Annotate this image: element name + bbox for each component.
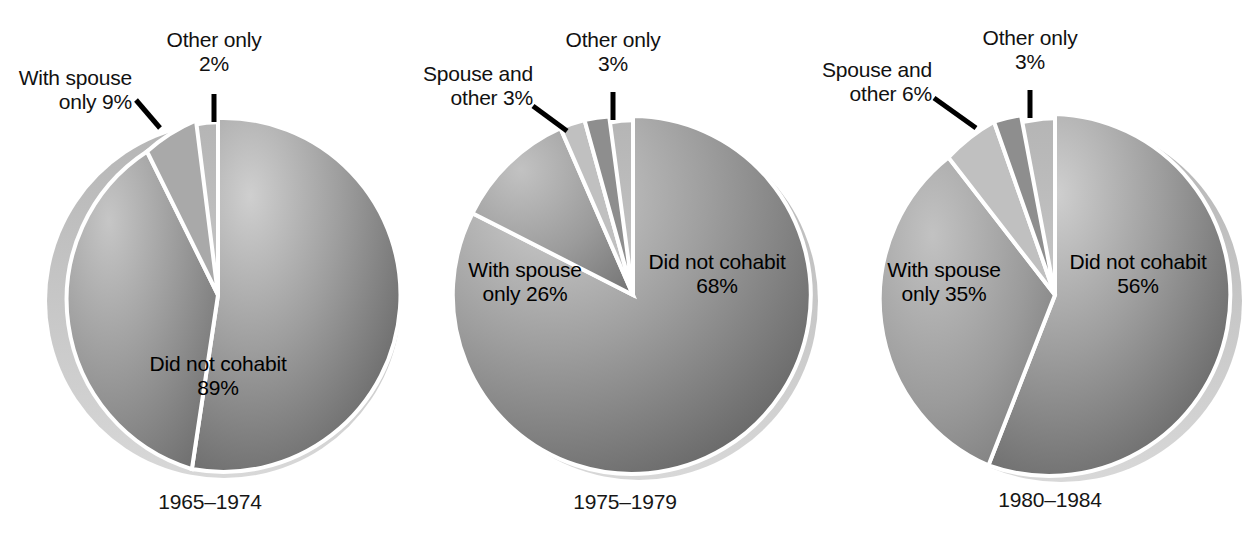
callout-spouse-and-other: Spouse and other 3%: [383, 62, 533, 109]
callout-with-spouse-only: With spouse only 9%: [0, 66, 132, 113]
leader-line-spouse-and-other: [533, 106, 567, 131]
period-label-1980-1984: 1980–1984: [840, 488, 1260, 512]
callout-other-only: Other only 3%: [940, 26, 1120, 73]
pie-panel-1980-1984: Other only 3% Spouse and other 6% Did no…: [840, 0, 1260, 543]
pie-slice-did-not-cohabit[interactable]: [192, 118, 401, 472]
callout-other-only: Other only 2%: [124, 28, 304, 75]
slice-label-did-not-cohabit: Did not cohabit 89%: [128, 352, 308, 400]
callout-other-only: Other only 3%: [523, 28, 703, 75]
pie-chart-figure: Other only 2% With spouse only 9% Did no…: [0, 0, 1260, 543]
slice-label-did-not-cohabit: Did not cohabit 68%: [627, 250, 807, 298]
period-label-1965-1974: 1965–1974: [0, 490, 420, 514]
period-label-1975-1979: 1975–1979: [415, 490, 835, 514]
callout-spouse-and-other: Spouse and other 6%: [780, 58, 932, 105]
pie-panel-1975-1979: Other only 3% Spouse and other 3% Did no…: [415, 0, 835, 543]
leader-line-with-spouse-only: [136, 100, 160, 128]
slice-label-with-spouse-only: With spouse only 26%: [443, 258, 607, 306]
leader-line-spouse-and-other: [934, 98, 976, 128]
slice-label-with-spouse-only: With spouse only 35%: [862, 258, 1026, 306]
slice-label-did-not-cohabit: Did not cohabit 56%: [1048, 250, 1228, 298]
pie-panel-1965-1974: Other only 2% With spouse only 9% Did no…: [0, 0, 420, 543]
